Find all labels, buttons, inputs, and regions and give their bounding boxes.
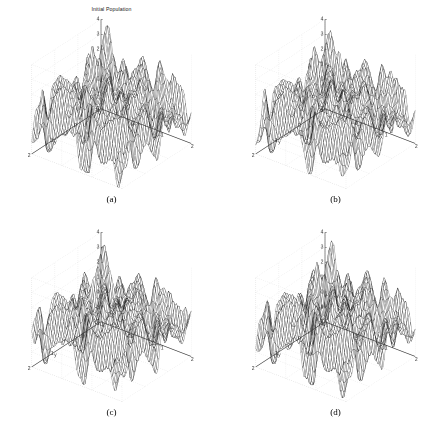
plot-panel-c: (c) [0,213,223,426]
mesh-plot-c [0,213,223,426]
subcaption-b: (b) [224,194,447,204]
mesh-plot-b [224,0,447,213]
subcaption-d: (d) [224,407,447,417]
mesh-plot-a [0,0,223,213]
plot-panel-a: Initial Population (a) [0,0,223,213]
plot-panel-d: (d) [224,213,447,426]
mesh-plot-d [224,213,447,426]
figure-container: Initial Population (a) (b) (c) (d) [0,0,447,426]
subcaption-c: (c) [0,407,223,417]
plot-panel-b: (b) [224,0,447,213]
subcaption-a: (a) [0,194,223,204]
